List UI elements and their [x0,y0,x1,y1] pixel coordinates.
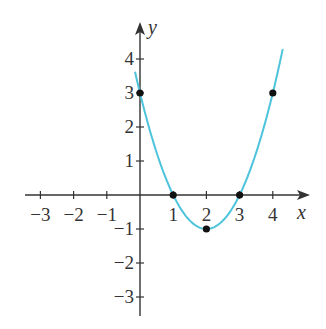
y-tick-label: −2 [114,252,134,273]
x-axis-label: x [296,201,306,223]
x-tick-label: 4 [268,204,278,225]
data-point [269,89,276,96]
data-point [136,89,143,96]
y-tick-label: 2 [125,116,135,137]
x-tick-label: 1 [168,204,178,225]
ticks [40,59,272,297]
y-axis-label: y [146,16,157,39]
x-tick-label: −2 [63,204,83,225]
data-point [236,191,243,198]
data-point [170,191,177,198]
plot-area: −3−2−112344321−1−2−3 x y [0,0,326,329]
tick-labels: −3−2−112344321−1−2−3 [30,48,278,307]
data-point [203,225,210,232]
y-tick-label: 4 [125,48,135,69]
x-tick-label: −3 [30,204,50,225]
x-tick-label: 2 [202,204,212,225]
y-tick-label: −3 [114,286,134,307]
y-tick-label: 3 [125,82,135,103]
x-tick-label: 3 [235,204,245,225]
y-tick-label: −1 [114,218,134,239]
y-tick-label: 1 [125,150,135,171]
axes [25,22,310,316]
parabola-curve [135,49,283,229]
